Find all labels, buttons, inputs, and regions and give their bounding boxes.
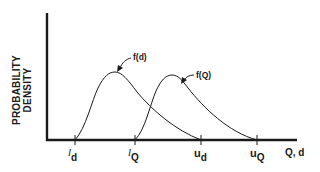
tick-label-ud-prefix: u — [194, 147, 201, 159]
curve-label-fQ: f(Q) — [196, 70, 211, 80]
tick-label-lQ: lQ — [128, 149, 139, 162]
plot-canvas — [0, 0, 320, 172]
tick-label-uQ-prefix: u — [250, 147, 257, 159]
tick-label-ud-sub: d — [201, 152, 207, 163]
x-axis-label: Q, d — [285, 147, 304, 159]
density-diagram: PROBABILITY DENSITY f(d) f(Q) ld lQ ud u… — [0, 0, 320, 172]
tick-label-uQ-sub: Q — [257, 152, 265, 163]
arrowhead-fd-icon — [117, 65, 123, 72]
curve-fQ — [135, 75, 257, 140]
y-axis-label-line-1: PROBABILITY — [11, 55, 22, 125]
tick-label-ld-sub: d — [71, 152, 77, 163]
tick-label-ud: ud — [194, 149, 207, 162]
y-axis-label: PROBABILITY DENSITY — [2, 40, 42, 140]
tick-label-uQ: uQ — [250, 149, 265, 162]
y-axis-label-line-2: DENSITY — [22, 55, 33, 125]
tick-label-ld: ld — [68, 149, 77, 162]
arrow-fd — [120, 58, 131, 68]
curve-label-fd: f(d) — [133, 52, 147, 62]
tick-label-lQ-sub: Q — [131, 152, 139, 163]
